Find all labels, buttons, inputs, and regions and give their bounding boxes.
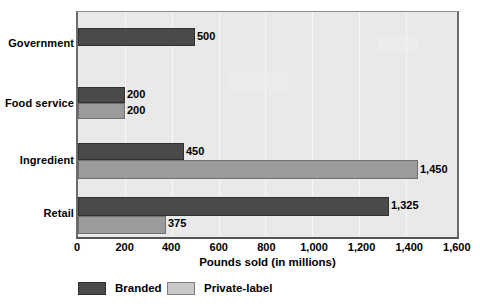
bar-value-food-service-private: 200 <box>127 104 145 116</box>
bar-value-government-branded: 500 <box>197 30 215 42</box>
legend-swatch-private-label-icon <box>167 282 195 295</box>
category-label-ingredient: Ingredient <box>0 154 74 166</box>
category-label-retail: Retail <box>0 207 74 219</box>
bar-ingredient-branded <box>78 143 184 160</box>
chart-legend: Branded Private-label <box>0 280 480 298</box>
bar-retail-branded <box>78 197 389 216</box>
scan-artifact <box>378 37 418 51</box>
legend-item-branded: Branded <box>78 280 162 296</box>
legend-swatch-branded-icon <box>78 282 106 295</box>
bar-ingredient-private-label <box>78 160 418 179</box>
bar-value-retail-private: 375 <box>168 217 186 229</box>
bar-chart: Government Food service Ingredient Retai… <box>0 0 480 304</box>
bar-government-branded <box>78 28 195 46</box>
bar-value-retail-branded: 1,325 <box>391 199 419 211</box>
xtick-label-1600: 1,600 <box>427 241 480 253</box>
legend-label-branded: Branded <box>115 282 162 295</box>
bar-value-food-service-branded: 200 <box>127 88 145 100</box>
category-label-government: Government <box>0 37 74 49</box>
category-label-food-service: Food service <box>0 97 74 109</box>
bar-value-ingredient-private: 1,450 <box>420 163 448 175</box>
bar-retail-private-label <box>78 216 166 234</box>
x-axis-title: Pounds sold (in millions) <box>76 256 459 269</box>
legend-label-private-label: Private-label <box>204 282 272 295</box>
legend-item-private-label: Private-label <box>167 280 272 296</box>
scan-artifact <box>228 72 288 90</box>
bar-value-ingredient-branded: 450 <box>186 145 204 157</box>
bar-food-service-branded <box>78 87 125 103</box>
bar-food-service-private-label <box>78 103 125 119</box>
